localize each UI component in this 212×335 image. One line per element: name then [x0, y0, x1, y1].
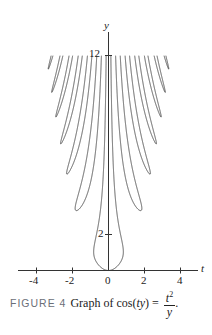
y-tick-label-2: 2	[98, 227, 104, 239]
x-tick-label: -2	[65, 274, 74, 286]
figure: y t 12 2 -4 -2 0 2 4 FIGURE 4Graph of co…	[0, 0, 212, 335]
figure-number: FIGURE 4	[10, 297, 66, 309]
x-tick-label: -4	[29, 274, 38, 286]
x-tick-label: 2	[141, 274, 147, 286]
figure-caption: FIGURE 4Graph of cos(ty) = t2 y .	[10, 289, 178, 320]
y-tick-label-12: 12	[89, 47, 100, 59]
x-tick-label: 0	[105, 274, 111, 286]
caption-text: Graph of cos(	[70, 296, 136, 310]
fraction: t2 y	[164, 288, 175, 319]
x-axis-label: t	[201, 262, 204, 274]
y-axis-label: y	[104, 19, 109, 31]
x-tick-label: 4	[177, 274, 183, 286]
